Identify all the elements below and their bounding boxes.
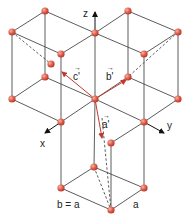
vector-b-prime bbox=[95, 80, 126, 99]
atom bbox=[41, 73, 48, 80]
atom bbox=[57, 184, 64, 191]
atom bbox=[124, 73, 131, 80]
atom bbox=[90, 163, 97, 170]
atom bbox=[107, 139, 114, 146]
vec-arrow-b: → bbox=[107, 64, 114, 71]
atom bbox=[107, 206, 114, 213]
vector-b-label: b' bbox=[106, 71, 114, 82]
x-axis-label: x bbox=[40, 138, 45, 149]
lattice-edges bbox=[12, 11, 178, 210]
vec-arrow-c: → bbox=[74, 64, 81, 71]
atom bbox=[140, 50, 147, 57]
y-axis-label: y bbox=[167, 120, 172, 131]
vector-c-label: c' bbox=[73, 71, 80, 82]
vector-a-label: a' bbox=[102, 119, 110, 130]
atom bbox=[174, 95, 181, 102]
vector-a-prime bbox=[95, 99, 102, 138]
crystal-lattice-diagram: z x y c' b' a' b = a a → → → bbox=[0, 0, 186, 218]
atom bbox=[91, 29, 98, 36]
primitive-vectors bbox=[62, 72, 126, 138]
atom bbox=[47, 60, 54, 67]
atom bbox=[57, 50, 64, 57]
atom bbox=[8, 28, 15, 35]
edge-label-right: a bbox=[133, 199, 139, 210]
vec-arrow-a: → bbox=[103, 112, 110, 119]
z-axis-label: z bbox=[83, 8, 88, 19]
edge-label-left: b = a bbox=[57, 199, 80, 210]
atom bbox=[41, 7, 48, 14]
atom bbox=[174, 28, 181, 35]
atom bbox=[140, 184, 147, 191]
atom bbox=[57, 118, 64, 125]
atom bbox=[8, 95, 15, 102]
atom bbox=[91, 95, 98, 102]
atom bbox=[140, 118, 147, 125]
atom bbox=[124, 7, 131, 14]
labels: z x y c' b' a' b = a a → → → bbox=[40, 8, 172, 210]
